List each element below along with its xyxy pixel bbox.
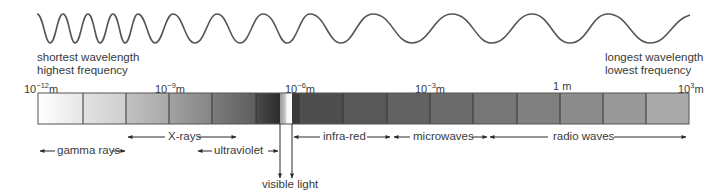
wave-right-caption: longest wavelength lowest frequency [605, 51, 703, 77]
tick-label-1e-3: 10−3m [415, 80, 445, 95]
label-xrays: X-rays [168, 130, 201, 143]
tick-label-1e-9: 10−9m [155, 80, 185, 95]
wave-line [37, 14, 690, 43]
label-ultraviolet: ultraviolet [214, 144, 263, 157]
wave-left-caption: shortest wavelength highest frequency [37, 51, 139, 77]
label-microwaves: microwaves [413, 130, 474, 143]
label-infra-red: infra-red [323, 130, 366, 143]
visible-light-band [280, 93, 292, 124]
tick-label-1m: 1 m [553, 80, 571, 92]
label-radio-waves: radio waves [553, 130, 614, 143]
label-gamma-rays: gamma rays [57, 144, 120, 157]
spectrum-diagram [0, 0, 725, 195]
label-visible-light: visible light [262, 178, 318, 191]
tick-label-1e-6: 10−6m [285, 80, 315, 95]
spectrum-bar [38, 93, 689, 124]
tick-label-1e-12: 10−12m [24, 80, 58, 95]
tick-label-1e3: 103m [678, 80, 704, 95]
